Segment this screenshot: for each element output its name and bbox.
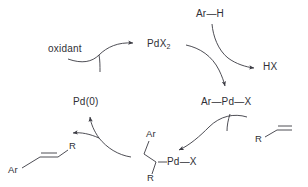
label-intermediate-ar: Ar — [146, 128, 156, 139]
label-product-ar: Ar — [8, 164, 18, 175]
label-pd-zero: Pd(0) — [73, 96, 98, 107]
alkene-reactant-structure — [265, 126, 292, 137]
pdx2-text: PdX — [147, 38, 167, 49]
alkyl-palladium-intermediate-structure — [144, 141, 167, 174]
arrow-beta-hydride-elimination — [73, 117, 131, 157]
label-aryl-palladium: Ar—Pd—X — [201, 96, 251, 107]
arrow-ch-activation-main — [186, 45, 225, 86]
label-oxidant: oxidant — [48, 43, 82, 54]
label-byproduct-hx: HX — [263, 61, 277, 72]
label-alkene-r: R — [255, 133, 262, 144]
arrow-migratory-insertion — [179, 114, 247, 150]
label-intermediate-r: R — [147, 172, 154, 183]
arrow-arene-to-hx — [212, 24, 254, 68]
label-arene-ar-h: Ar—H — [196, 8, 224, 19]
pdx2-subscript: 2 — [167, 43, 171, 50]
reaction-scheme-canvas: oxidant PdX2 Ar—H HX Pd(0) Ar—Pd—X R Ar … — [0, 0, 308, 187]
label-intermediate-pd-x: Pd—X — [167, 156, 197, 167]
scheme-vector-layer — [0, 0, 308, 187]
label-pdx2: PdX2 — [147, 38, 171, 50]
label-product-r: R — [69, 140, 76, 151]
product-alkene-structure — [22, 150, 68, 168]
